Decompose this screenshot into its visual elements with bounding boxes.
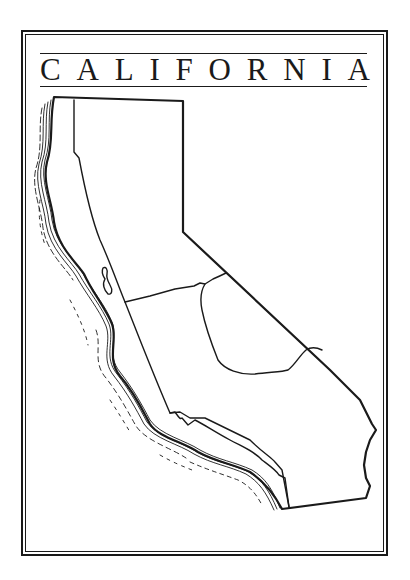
sf-bay xyxy=(102,267,112,294)
central-boundary xyxy=(125,273,226,302)
california-map xyxy=(0,0,410,580)
coastal-waves xyxy=(35,100,280,510)
state-outline xyxy=(46,97,376,509)
sierra-boundary xyxy=(201,284,322,374)
north-interior-boundary xyxy=(74,100,289,507)
